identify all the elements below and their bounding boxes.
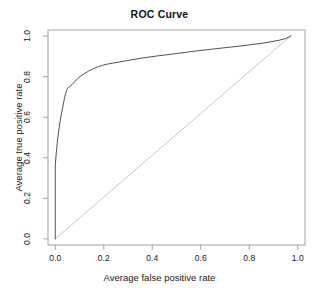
plot-canvas	[0, 0, 319, 294]
axis-box	[48, 30, 305, 245]
x-axis-title: Average false positive rate	[0, 272, 319, 283]
chance-diagonal-line	[55, 36, 291, 239]
x-tick-label: 1.0	[284, 253, 312, 263]
axis-ticks	[43, 36, 298, 250]
x-tick-label: 0.0	[41, 253, 69, 263]
y-tick-label: 1.0	[21, 24, 33, 48]
x-tick-label: 0.8	[235, 253, 263, 263]
x-tick-label: 0.2	[90, 253, 118, 263]
plot-frame	[48, 30, 305, 245]
y-tick-label: 0.0	[21, 227, 33, 251]
roc-curve-plot: ROC Curve 0.00.20.40.60.81.0 0.00.20.40.…	[0, 0, 319, 294]
data-series	[55, 36, 291, 239]
y-axis-title: Average true positive rate	[13, 58, 24, 218]
x-tick-label: 0.4	[138, 253, 166, 263]
x-tick-label: 0.6	[187, 253, 215, 263]
